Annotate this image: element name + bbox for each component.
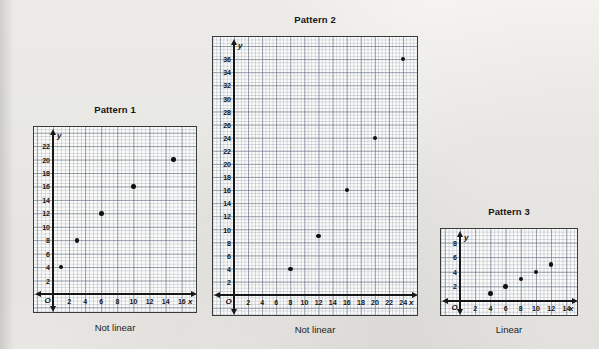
x-axis-line-pattern-2 xyxy=(216,294,413,296)
graph-paper-grid-pattern-1 xyxy=(34,127,196,312)
y-tick-label-pattern-2-24: 24 xyxy=(218,134,231,141)
y-tick-label-pattern-2-20: 20 xyxy=(218,161,231,168)
x-tick-label-pattern-3-6: 6 xyxy=(504,305,508,312)
x-axis-arrow-right-pattern-2 xyxy=(412,292,418,298)
y-tick-label-pattern-2-6: 6 xyxy=(218,252,231,259)
chart-title-pattern-1: Pattern 1 xyxy=(33,104,197,115)
graph-paper-grid-pattern-2 xyxy=(213,37,417,315)
y-tick-label-pattern-3-2: 2 xyxy=(444,283,457,290)
origin-label-pattern-2: O xyxy=(226,298,232,306)
x-tick-label-pattern-3-10: 10 xyxy=(532,305,540,312)
y-axis-arrow-down-pattern-2 xyxy=(231,309,237,315)
data-point-pattern-1-2 xyxy=(99,211,104,216)
x-tick-label-pattern-1-10: 10 xyxy=(130,298,138,305)
x-tick-label-pattern-1-16: 16 xyxy=(178,298,186,305)
y-tick-label-pattern-1-4: 4 xyxy=(37,264,50,271)
x-tick-label-pattern-2-4: 4 xyxy=(260,299,264,306)
y-tick-label-pattern-1-6: 6 xyxy=(37,250,50,257)
y-tick-label-pattern-1-14: 14 xyxy=(37,196,50,203)
x-tick-label-pattern-2-24: 24 xyxy=(399,299,407,306)
y-tick-label-pattern-3-4: 4 xyxy=(444,268,457,275)
x-tick-label-pattern-1-14: 14 xyxy=(162,298,170,305)
y-tick-label-pattern-1-2: 2 xyxy=(37,277,50,284)
x-tick-label-pattern-3-2: 2 xyxy=(473,305,477,312)
y-tick-label-pattern-2-2: 2 xyxy=(218,278,231,285)
y-tick-label-pattern-1-8: 8 xyxy=(37,237,50,244)
y-tick-label-pattern-2-28: 28 xyxy=(218,108,231,115)
data-point-pattern-3-1 xyxy=(503,284,508,289)
y-axis-label-pattern-1: y xyxy=(57,132,61,140)
data-point-pattern-1-3 xyxy=(131,184,136,189)
x-axis-arrow-right-pattern-1 xyxy=(191,291,197,297)
x-tick-label-pattern-3-14: 14 xyxy=(562,305,570,312)
y-axis-line-pattern-1 xyxy=(52,131,54,308)
plot-frame-pattern-2: yxO2468101214161820222424681012141618202… xyxy=(212,36,418,316)
plot-frame-pattern-3: yxO24681012142468 xyxy=(440,228,578,316)
y-tick-label-pattern-2-26: 26 xyxy=(218,121,231,128)
y-axis-line-pattern-2 xyxy=(233,41,235,311)
x-axis-arrow-left-pattern-1 xyxy=(35,291,41,297)
y-tick-label-pattern-2-10: 10 xyxy=(218,226,231,233)
y-tick-label-pattern-2-14: 14 xyxy=(218,200,231,207)
y-tick-label-pattern-2-12: 12 xyxy=(218,213,231,220)
x-axis-label-pattern-2: x xyxy=(409,299,413,307)
data-point-pattern-1-1 xyxy=(75,238,80,243)
y-tick-label-pattern-1-12: 12 xyxy=(37,210,50,217)
x-tick-label-pattern-1-4: 4 xyxy=(83,298,87,305)
y-axis-label-pattern-3: y xyxy=(464,234,468,242)
y-tick-label-pattern-1-10: 10 xyxy=(37,223,50,230)
plot-frame-pattern-1: yxO246810121416246810121416182022 xyxy=(33,126,197,313)
y-tick-label-pattern-2-22: 22 xyxy=(218,147,231,154)
x-tick-label-pattern-1-2: 2 xyxy=(67,298,71,305)
chart-panel-pattern-3: Pattern 3 yxO24681012142468 Linear xyxy=(440,206,578,340)
x-tick-label-pattern-2-12: 12 xyxy=(315,299,323,306)
scan-edge-shadow xyxy=(0,0,14,349)
y-tick-label-pattern-1-16: 16 xyxy=(37,183,50,190)
y-axis-arrow-up-pattern-3 xyxy=(457,231,463,237)
y-tick-label-pattern-2-18: 18 xyxy=(218,174,231,181)
x-tick-label-pattern-2-16: 16 xyxy=(343,299,351,306)
y-tick-label-pattern-2-32: 32 xyxy=(218,82,231,89)
x-tick-label-pattern-2-20: 20 xyxy=(371,299,379,306)
y-tick-label-pattern-2-30: 30 xyxy=(218,95,231,102)
x-tick-label-pattern-2-10: 10 xyxy=(301,299,309,306)
x-axis-arrow-right-pattern-3 xyxy=(572,298,578,304)
data-point-pattern-1-4 xyxy=(171,157,176,162)
origin-label-pattern-1: O xyxy=(45,297,51,305)
y-tick-label-pattern-2-16: 16 xyxy=(218,187,231,194)
data-point-pattern-2-0 xyxy=(288,267,293,272)
chart-panel-pattern-2: Pattern 2 yxO246810121416182022242468101… xyxy=(212,14,418,340)
x-axis-label-pattern-1: x xyxy=(188,298,192,306)
x-tick-label-pattern-1-6: 6 xyxy=(99,298,103,305)
y-tick-label-pattern-2-4: 4 xyxy=(218,265,231,272)
x-tick-label-pattern-2-18: 18 xyxy=(357,299,365,306)
data-point-pattern-3-0 xyxy=(488,291,493,296)
origin-label-pattern-3: O xyxy=(452,304,458,312)
x-tick-label-pattern-2-6: 6 xyxy=(274,299,278,306)
x-tick-label-pattern-3-12: 12 xyxy=(547,305,555,312)
chart-panel-pattern-1: Pattern 1 yxO246810121416246810121416182… xyxy=(33,104,197,340)
y-tick-label-pattern-2-34: 34 xyxy=(218,69,231,76)
y-axis-arrow-up-pattern-2 xyxy=(231,39,237,45)
x-axis-arrow-left-pattern-2 xyxy=(214,292,220,298)
chart-title-pattern-2: Pattern 2 xyxy=(212,14,418,25)
y-tick-label-pattern-3-8: 8 xyxy=(444,239,457,246)
x-axis-line-pattern-3 xyxy=(444,300,573,302)
x-tick-label-pattern-3-8: 8 xyxy=(519,305,523,312)
x-tick-label-pattern-3-4: 4 xyxy=(488,305,492,312)
y-axis-arrow-up-pattern-1 xyxy=(50,129,56,135)
x-tick-label-pattern-1-12: 12 xyxy=(146,298,154,305)
x-tick-label-pattern-2-8: 8 xyxy=(288,299,292,306)
y-axis-line-pattern-3 xyxy=(459,233,461,311)
x-axis-arrow-left-pattern-3 xyxy=(442,298,448,304)
y-tick-label-pattern-3-6: 6 xyxy=(444,254,457,261)
chart-title-pattern-3: Pattern 3 xyxy=(440,206,578,217)
y-tick-label-pattern-1-20: 20 xyxy=(37,156,50,163)
graph-paper-grid-pattern-3 xyxy=(441,229,577,315)
x-tick-label-pattern-2-2: 2 xyxy=(246,299,250,306)
chart-caption-pattern-3: Linear xyxy=(440,324,578,335)
x-tick-label-pattern-1-8: 8 xyxy=(115,298,119,305)
chart-caption-pattern-2: Not linear xyxy=(212,324,418,335)
chart-caption-pattern-1: Not linear xyxy=(33,322,197,333)
x-tick-label-pattern-2-14: 14 xyxy=(329,299,337,306)
